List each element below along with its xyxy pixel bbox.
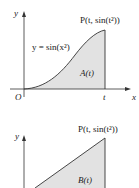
x-axis-label: x [131, 92, 136, 102]
region-b-label: B(t) [78, 175, 92, 185]
figure-canvas: y x O t y = sin(x²) P(t, sin(t²)) A(t) y… [0, 0, 139, 188]
origin-label: O [15, 92, 22, 102]
figure-bottom: y P(t, sin(t²)) B(t) [14, 124, 118, 188]
area-a-region [24, 30, 105, 89]
y-axis-arrow-icon [22, 135, 26, 141]
y-axis-arrow-icon [22, 11, 26, 17]
y-axis-label: y [14, 131, 19, 141]
point-label: P(t, sin(t²)) [78, 124, 118, 134]
t-label: t [103, 92, 106, 102]
region-a-label: A(t) [79, 68, 94, 78]
y-axis-label: y [13, 8, 18, 18]
point-label: P(t, sin(t²)) [80, 15, 120, 25]
curve-label: y = sin(x²) [32, 42, 70, 52]
figure-top: y x O t y = sin(x²) P(t, sin(t²)) A(t) [10, 8, 136, 102]
x-axis-arrow-icon [125, 87, 131, 91]
